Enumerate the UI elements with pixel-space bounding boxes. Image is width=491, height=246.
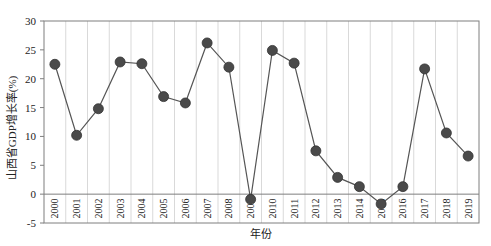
data-point-marker bbox=[354, 182, 364, 192]
data-point-marker bbox=[50, 59, 60, 69]
x-category-label: 2017 bbox=[419, 199, 430, 219]
data-point-marker bbox=[267, 45, 277, 55]
x-category-label: 2003 bbox=[115, 199, 126, 219]
data-point-marker bbox=[246, 194, 256, 204]
data-point-marker bbox=[224, 62, 234, 72]
data-point-marker bbox=[202, 38, 212, 48]
y-axis-title: 山西省GDP增长率(%) bbox=[5, 75, 19, 180]
data-point-marker bbox=[159, 92, 169, 102]
x-category-label: 2001 bbox=[71, 199, 82, 219]
y-tick-label: 25 bbox=[25, 44, 37, 56]
data-point-marker bbox=[376, 199, 386, 209]
x-category-label: 2011 bbox=[289, 199, 300, 219]
data-point-marker bbox=[180, 98, 190, 108]
data-point-marker bbox=[137, 59, 147, 69]
x-category-label: 2013 bbox=[332, 199, 343, 219]
data-point-marker bbox=[420, 64, 430, 74]
data-point-marker bbox=[311, 146, 321, 156]
x-category-label: 2014 bbox=[354, 199, 365, 219]
y-tick-label: 0 bbox=[31, 188, 37, 200]
data-point-marker bbox=[441, 128, 451, 138]
y-tick-label: -5 bbox=[27, 217, 37, 229]
data-point-marker bbox=[398, 182, 408, 192]
x-category-label: 2019 bbox=[463, 199, 474, 219]
x-category-label: 2016 bbox=[397, 199, 408, 219]
x-category-label: 2006 bbox=[180, 199, 191, 219]
x-category-label: 2002 bbox=[93, 199, 104, 219]
y-tick-label: 30 bbox=[25, 15, 37, 27]
data-point-marker bbox=[333, 172, 343, 182]
x-category-label: 2008 bbox=[223, 199, 234, 219]
x-category-label: 2018 bbox=[441, 199, 452, 219]
line-chart: -5051015202530 2000200120022003200420052… bbox=[0, 0, 491, 246]
data-point-marker bbox=[115, 57, 125, 67]
y-tick-label: 20 bbox=[25, 73, 37, 85]
y-tick-label: 15 bbox=[25, 102, 37, 114]
x-category-label: 2004 bbox=[136, 199, 147, 219]
x-category-label: 2007 bbox=[202, 199, 213, 219]
x-category-label: 2005 bbox=[158, 199, 169, 219]
data-point-marker bbox=[463, 151, 473, 161]
y-axis: -5051015202530 bbox=[25, 15, 44, 229]
data-point-marker bbox=[289, 58, 299, 68]
x-category-label: 2000 bbox=[49, 199, 60, 219]
x-category-label: 2010 bbox=[267, 199, 278, 219]
x-category-label: 2012 bbox=[310, 199, 321, 219]
data-point-marker bbox=[93, 104, 103, 114]
y-tick-label: 5 bbox=[31, 159, 37, 171]
x-axis-title: 年份 bbox=[250, 227, 272, 240]
y-tick-label: 10 bbox=[25, 130, 37, 142]
data-point-marker bbox=[72, 130, 82, 140]
